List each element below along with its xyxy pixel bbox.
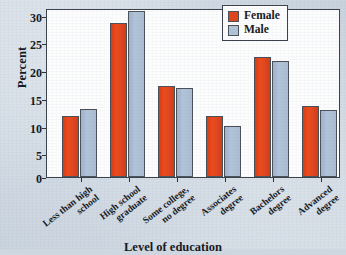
y-tick-30: 30 [16, 12, 42, 24]
bar-group [298, 10, 338, 177]
bar-female-3[interactable] [158, 86, 175, 177]
x-axis-title: Level of education [0, 240, 346, 255]
x-tickmark-3 [177, 178, 178, 182]
bar-male-4[interactable] [224, 126, 241, 177]
legend: Female Male [222, 5, 288, 41]
y-tick-0: 0 [16, 173, 42, 185]
bar-male-3[interactable] [176, 88, 193, 177]
legend-label-female: Female [244, 10, 280, 22]
x-tickmark-4 [225, 178, 226, 182]
y-axis-tick-labels: 30 25 20 15 10 5 0 [14, 0, 42, 249]
x-tickmark-6 [321, 178, 322, 182]
bar-female-6[interactable] [302, 106, 319, 177]
bar-female-1[interactable] [62, 116, 79, 177]
x-tickmark-2 [129, 178, 130, 182]
bar-group [58, 10, 98, 177]
legend-swatch-male-icon [228, 25, 239, 36]
plot-area [46, 9, 340, 178]
legend-item-male[interactable]: Male [228, 23, 280, 37]
bar-group [106, 10, 146, 177]
x-tickmark-5 [273, 178, 274, 182]
bar-female-2[interactable] [110, 23, 127, 177]
bar-female-4[interactable] [206, 116, 223, 177]
y-tickmark-0 [42, 178, 46, 179]
bar-male-2[interactable] [128, 11, 145, 177]
bar-male-5[interactable] [272, 61, 289, 177]
legend-label-male: Male [244, 24, 269, 36]
bar-groups [47, 10, 339, 177]
y-tick-25: 25 [16, 39, 42, 51]
bar-female-5[interactable] [254, 57, 271, 177]
y-tick-20: 20 [16, 67, 42, 79]
bar-male-1[interactable] [80, 109, 97, 177]
y-tick-15: 15 [16, 95, 42, 107]
x-tickmark-1 [81, 178, 82, 182]
legend-swatch-female-icon [228, 11, 239, 22]
bar-male-6[interactable] [320, 110, 337, 177]
legend-item-female[interactable]: Female [228, 9, 280, 23]
y-tick-5: 5 [16, 150, 42, 162]
bar-group [154, 10, 194, 177]
y-tick-10: 10 [16, 123, 42, 135]
